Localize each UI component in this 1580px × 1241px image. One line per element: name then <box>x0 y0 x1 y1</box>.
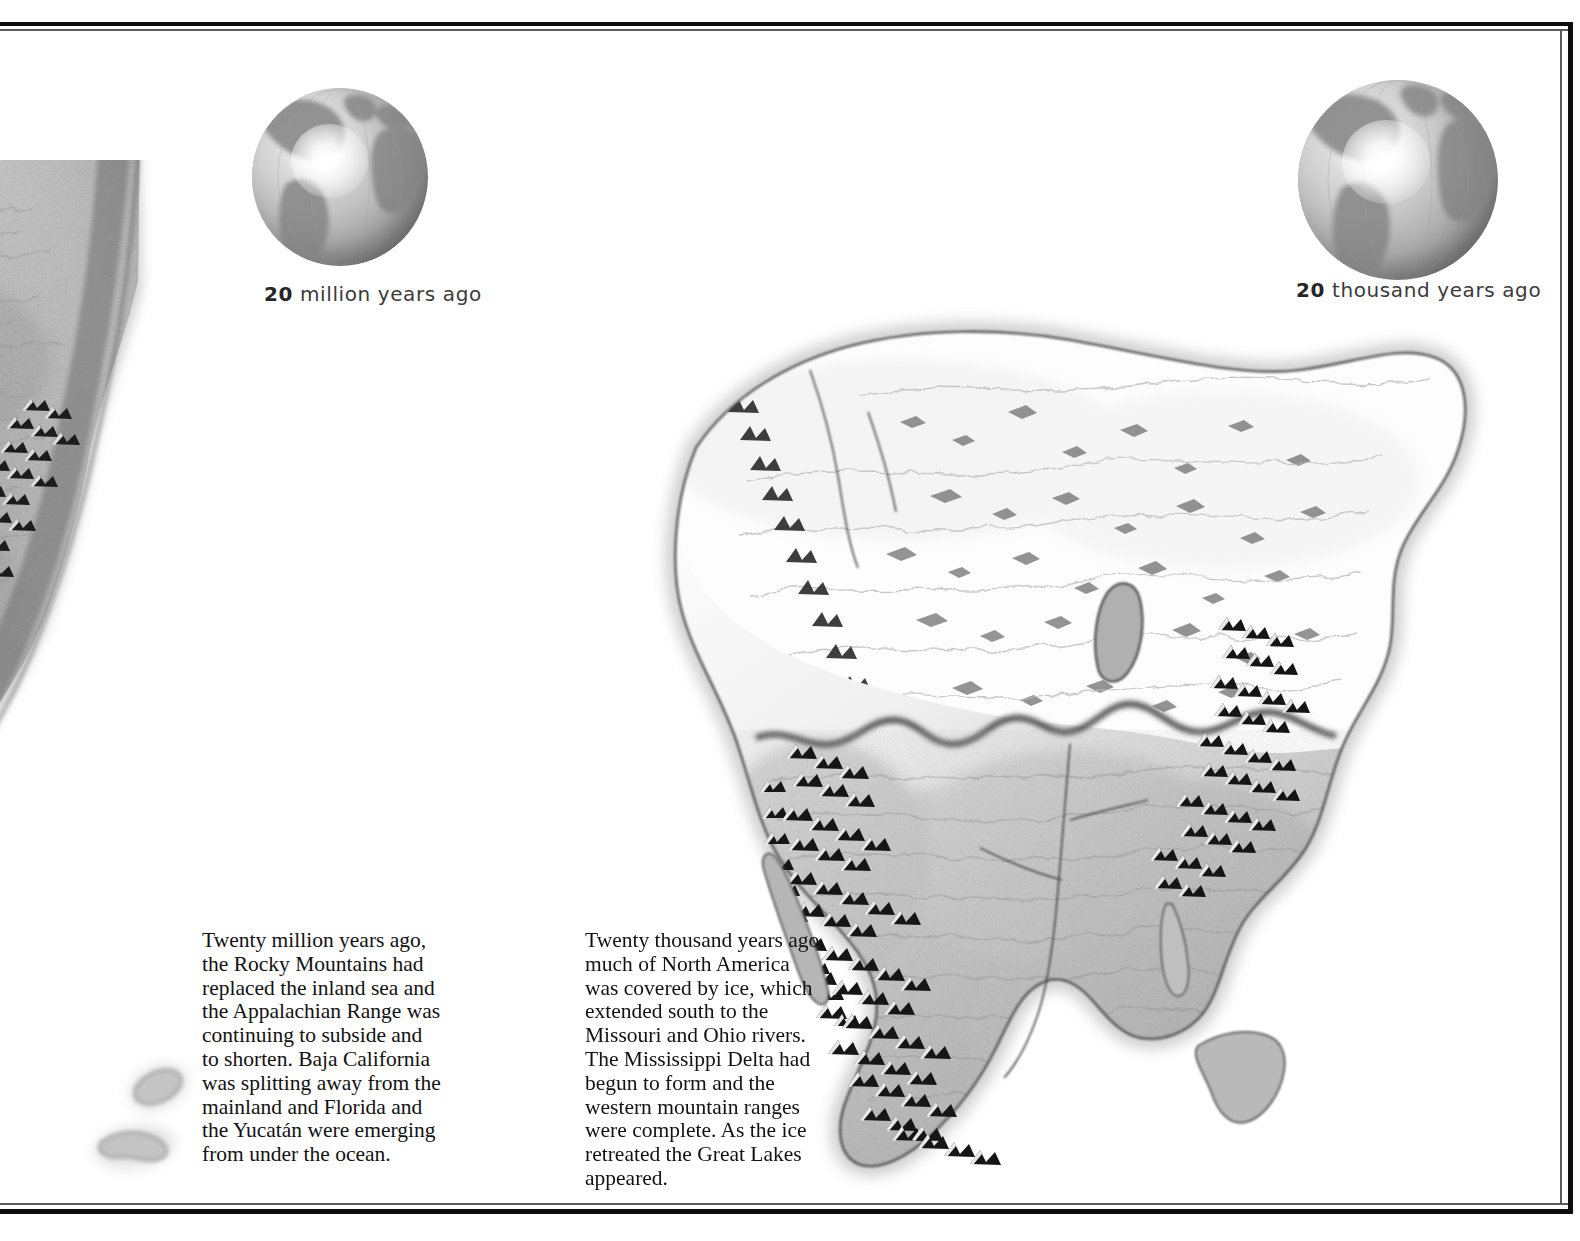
yucatan-peninsula <box>1196 1032 1285 1123</box>
caption-paragraph-left: Twenty million years ago, the Rocky Moun… <box>202 929 442 1167</box>
frame-rule-right-thick <box>1568 22 1573 1214</box>
caption-paragraph-right: Twenty thousand years ago, much of North… <box>585 929 825 1191</box>
globe-caption-right-rest: thousand years ago <box>1325 278 1541 302</box>
globe-icon <box>1298 80 1498 280</box>
frame-rule-right-thin <box>1560 29 1562 1205</box>
map-north-america-20-million-years-ago <box>0 160 490 950</box>
frame-rule-bottom-thin <box>0 1203 1572 1205</box>
globe-20-thousand-years-ago <box>1298 80 1498 280</box>
globe-caption-right: 20 thousand years ago <box>1296 278 1541 302</box>
globe-caption-left-rest: million years ago <box>293 282 482 306</box>
globe-icon <box>252 88 428 266</box>
globe-caption-left: 20 million years ago <box>264 282 482 306</box>
globe-caption-left-number: 20 <box>264 282 293 306</box>
frame-rule-bottom-thick <box>0 1209 1572 1214</box>
frame-rule-top-thick <box>0 22 1572 26</box>
frame-rule-top-thin <box>0 29 1572 31</box>
globe-caption-right-number: 20 <box>1296 278 1325 302</box>
globe-20-million-years-ago <box>252 88 428 266</box>
illustrated-page: 20 million years ago 20 thousand years a… <box>0 0 1580 1241</box>
